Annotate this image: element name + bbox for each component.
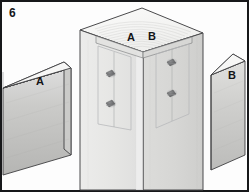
post-face-label-b: B (148, 31, 156, 42)
board-a-end-face (64, 62, 71, 155)
figure-number-label: 6 (9, 7, 16, 19)
board-a-label: A (36, 76, 44, 87)
post-right-face (143, 33, 203, 190)
board-b-label: B (228, 70, 236, 81)
figure-drawing-canvas (0, 0, 249, 192)
post-group (80, 8, 203, 190)
post-corner-highlight (136, 50, 143, 190)
post-face-label-a: A (127, 32, 135, 43)
figure-illustration: 6 A B A B (0, 0, 249, 192)
